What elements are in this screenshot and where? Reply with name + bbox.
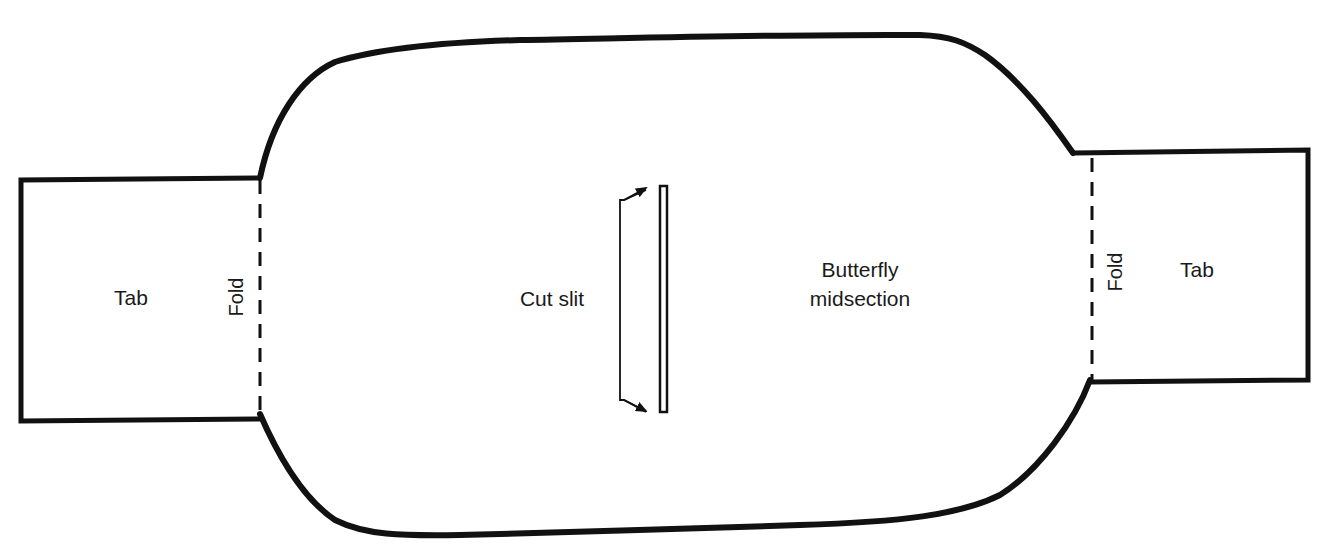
left-fold-label: Fold <box>225 278 247 317</box>
left-tab: Tab Fold <box>21 178 260 421</box>
cut-slit-arrow-top <box>624 188 646 200</box>
midsection-label-line2: midsection <box>810 287 910 310</box>
cut-slit-bracket-arrow <box>620 190 646 412</box>
midsection-label-line1: Butterfly <box>821 258 899 281</box>
butterfly-template-diagram: Tab Fold Butterfly midsection Cut slit F… <box>0 0 1327 555</box>
left-tab-label: Tab <box>114 286 148 309</box>
cut-slit-label: Cut slit <box>520 287 584 310</box>
right-fold-label: Fold <box>1104 253 1126 292</box>
cut-slit: Cut slit <box>520 186 667 412</box>
right-tab: Fold Tab <box>1073 150 1308 382</box>
cut-slit-arrow-bottom <box>624 400 646 411</box>
midsection-bottom-outline <box>260 380 1090 535</box>
cut-slit-rectangle <box>660 186 667 412</box>
midsection-top-outline <box>260 35 1073 178</box>
right-tab-label: Tab <box>1180 258 1214 281</box>
midsection-body: Butterfly midsection <box>260 35 1090 535</box>
